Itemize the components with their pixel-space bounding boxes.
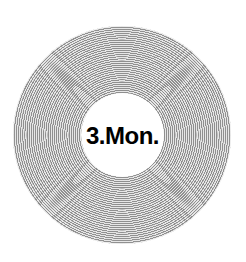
disc-center-hole: 3.Mon.	[81, 93, 164, 177]
disc-label: 3.Mon.	[86, 124, 159, 148]
